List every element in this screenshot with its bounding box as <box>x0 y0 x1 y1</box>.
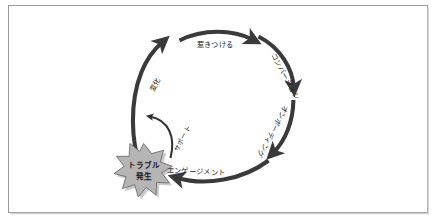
cycle-diagram-canvas: 惹きつける コンバージョン オンボーディング エンゲージメント 変化 サポート … <box>0 0 434 221</box>
diagram-frame: 惹きつける コンバージョン オンボーディング エンゲージメント 変化 サポート … <box>0 0 434 221</box>
label-attract: 惹きつける <box>197 40 234 49</box>
burst-label-line2: 発生 <box>135 171 152 181</box>
burst-label-line1: トラブル <box>128 160 160 170</box>
